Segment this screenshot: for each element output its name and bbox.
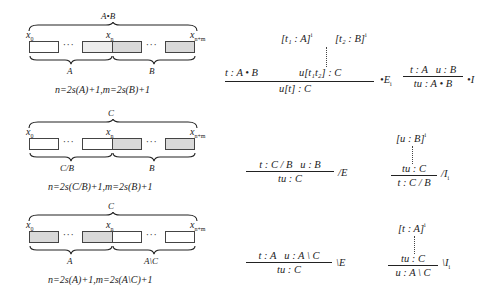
rule-backslash-intro-fraction: tu : C u : A \ C	[388, 253, 438, 278]
panel-backslash: C x0 xn xn+m ··· ··· A A\C n=2s(A)+1,m=2…	[0, 190, 200, 285]
inference-line	[246, 171, 334, 172]
cell-1	[29, 138, 59, 150]
rule-product-intro: t : A u : B tu : A • B	[403, 64, 463, 89]
hypothesis: [t : A]i	[398, 222, 426, 234]
rule-slash-elim: t : C / B u : B tu : C	[246, 159, 334, 184]
rule-name-slash-intro: /Ii	[441, 168, 449, 181]
conclusion: tu : C	[246, 264, 332, 275]
rule-name-backslash-intro: \Ii	[442, 257, 450, 270]
left-brace-icon	[29, 246, 113, 255]
top-label: A•B	[101, 11, 115, 21]
rule-name-backslash-elim: \E	[336, 257, 345, 268]
hypothesis: [u : B]i	[396, 132, 426, 144]
derivation-dots	[412, 146, 415, 164]
ellipsis-icon: ···	[63, 40, 75, 50]
right-brace-icon	[112, 153, 196, 162]
cell-1	[29, 231, 59, 243]
ellipsis-icon: ···	[63, 230, 75, 240]
right-brace-icon	[112, 246, 196, 255]
ellipsis-icon: ···	[146, 40, 158, 50]
left-label: C/B	[60, 163, 74, 173]
size-formula: n=2s(A)+1,m=2s(A\C)+1	[48, 274, 152, 285]
rule-name-product-elim: •Ei	[380, 74, 392, 87]
cell-3	[112, 138, 142, 150]
rule-product-elim: [t₁ : A]i [t₂ : B]i t : A • B u[t₁t₂] : …	[225, 25, 375, 100]
cell-2	[82, 231, 113, 243]
premises: t : A u : A \ C	[246, 250, 332, 261]
right-brace-icon	[112, 56, 196, 65]
right-label: B	[149, 66, 155, 76]
inference-line	[225, 81, 374, 82]
premise: tu : C	[388, 253, 438, 264]
rule-backslash-elim: t : A u : A \ C tu : C	[246, 250, 332, 275]
premise-right: u[t₁t₂] : C	[299, 67, 341, 78]
conclusion: u : A \ C	[388, 267, 438, 278]
cell-2	[82, 41, 113, 53]
left-brace-icon	[29, 56, 113, 65]
cell-3	[112, 41, 142, 53]
ellipsis-icon: ···	[146, 230, 158, 240]
ellipsis-icon: ···	[146, 137, 158, 147]
premises: t : C / B u : B	[246, 159, 334, 170]
panel-product: A•B x0 xn xn+m ··· ··· A B n=2s(A)+1,m=2…	[0, 0, 200, 95]
inference-line	[246, 262, 332, 263]
conclusion: tu : A • B	[403, 78, 463, 89]
right-label: B	[149, 163, 155, 173]
derivation-dots	[326, 47, 329, 67]
rule-name-product-intro: •I	[467, 74, 474, 85]
inference-line	[391, 175, 437, 176]
conclusion: u[t] : C	[279, 83, 311, 94]
premise-left: t : A • B	[225, 67, 258, 78]
inference-line	[403, 76, 463, 77]
cell-3	[112, 231, 142, 243]
derivation-dots	[414, 236, 417, 254]
left-brace-icon	[29, 153, 113, 162]
right-label: A\C	[144, 256, 158, 266]
rule-slash-intro-fraction: tu : C t : C / B	[391, 163, 437, 188]
premise: tu : C	[391, 163, 437, 174]
left-label: A	[67, 66, 73, 76]
conclusion: t : C / B	[391, 177, 437, 188]
premises: t : A u : B	[403, 64, 463, 75]
size-formula: n=2s(A)+1,m=2s(B)+1	[55, 84, 150, 95]
cell-4	[165, 231, 195, 243]
left-label: A	[67, 256, 73, 266]
conclusion: tu : C	[246, 173, 334, 184]
cell-4	[165, 138, 195, 150]
top-label: C	[108, 108, 114, 118]
cell-4	[165, 41, 195, 53]
panel-slash: C x0 xn xn+m ··· ··· C/B B n=2s(C/B)+1,m…	[0, 97, 200, 192]
rule-name-slash-elim: /E	[338, 167, 347, 178]
hypothesis-1: [t₁ : A]i	[281, 32, 312, 44]
ellipsis-icon: ···	[63, 137, 75, 147]
hypothesis-2: [t₂ : B]i	[335, 32, 367, 44]
top-label: C	[108, 201, 114, 211]
cell-2	[82, 138, 113, 150]
inference-line	[388, 265, 438, 266]
cell-1	[29, 41, 59, 53]
